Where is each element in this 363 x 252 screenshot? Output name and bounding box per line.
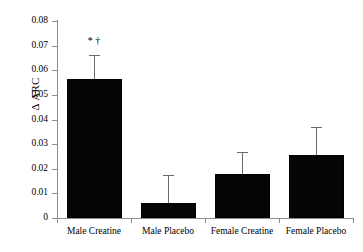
x-tick-mark [353,218,354,223]
y-tick-mark [52,169,58,170]
bar [289,155,344,218]
y-tick-label: 0.03 [8,139,48,149]
x-tick-mark [279,218,280,223]
y-tick-mark [52,95,58,96]
x-tick-mark [205,218,206,223]
y-tick-label: 0.07 [8,41,48,51]
error-bar-cap [237,152,248,153]
y-tick-mark [52,193,58,194]
x-tick-mark [57,218,58,223]
y-tick-label: 0.02 [8,164,48,174]
x-axis-category-label: Female Creatine [205,226,279,237]
bar [215,174,270,218]
y-tick-label: 0.01 [8,188,48,198]
error-bar-stem [316,127,317,155]
x-axis-category-label: Male Creatine [57,226,131,237]
y-tick-mark [52,144,58,145]
y-tick-label: 0 [8,213,48,223]
error-bar-stem [242,152,243,174]
x-axis-category-label: Female Placebo [279,226,353,237]
y-tick-label: 0.06 [8,65,48,75]
y-tick-label: 0.04 [8,115,48,125]
error-bar-cap [89,55,100,56]
error-bar-cap [163,175,174,176]
significance-marker: * † [64,36,124,46]
error-bar-stem [94,55,95,79]
y-tick-mark [52,120,58,121]
x-tick-mark [131,218,132,223]
bar [141,203,196,218]
bar [67,79,122,218]
y-tick-label: 0.05 [8,90,48,100]
y-tick-mark [52,46,58,47]
error-bar-cap [311,127,322,128]
y-tick-mark [52,70,58,71]
x-axis-category-label: Male Placebo [131,226,205,237]
y-tick-label: 0.08 [8,16,48,26]
y-tick-mark [52,21,58,22]
bar-chart-figure: Δ ARC 0.080.070.060.050.040.030.020.010 … [0,0,363,252]
error-bar-stem [168,175,169,203]
